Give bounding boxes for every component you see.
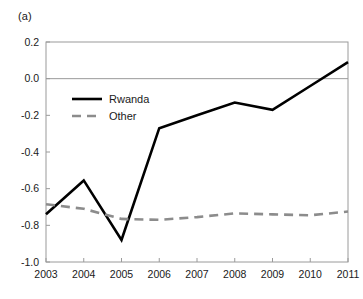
- y-axis-tick-label: 0.0: [24, 72, 39, 84]
- y-axis-tick-label: -0.2: [21, 109, 39, 121]
- plot-frame: [46, 42, 348, 262]
- y-axis-tick-label: 0.2: [24, 36, 39, 48]
- x-axis-tick-label: 2005: [110, 268, 134, 280]
- legend-label-other: Other: [109, 110, 137, 122]
- y-axis-tick-label: -0.6: [21, 182, 39, 194]
- x-axis-tick-label: 2004: [72, 268, 96, 280]
- x-axis-tick-label: 2009: [261, 268, 285, 280]
- line-chart: 0.20.0-0.2-0.4-0.6-0.8-1.020032004200520…: [0, 0, 363, 299]
- legend-label-rwanda: Rwanda: [109, 93, 150, 105]
- y-axis-tick-label: -1.0: [21, 256, 39, 268]
- y-axis-tick-label: -0.4: [21, 146, 39, 158]
- x-axis-tick-label: 2010: [299, 268, 323, 280]
- x-axis-tick-label: 2003: [34, 268, 58, 280]
- x-axis-tick-label: 2008: [223, 268, 247, 280]
- x-axis-tick-label: 2011: [337, 268, 360, 280]
- series-line-rwanda: [46, 62, 348, 240]
- series-line-other: [46, 204, 348, 220]
- x-axis-tick-label: 2007: [185, 268, 209, 280]
- x-axis-tick-label: 2006: [148, 268, 172, 280]
- figure-panel-a: (a) 0.20.0-0.2-0.4-0.6-0.8-1.02003200420…: [0, 0, 363, 299]
- y-axis-tick-label: -0.8: [21, 219, 39, 231]
